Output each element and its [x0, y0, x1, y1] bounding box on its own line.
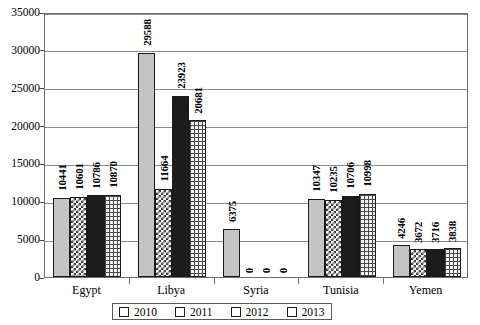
bar-value-label: 0 — [260, 268, 271, 273]
bar-tunisia-2012[interactable]: 10706 — [342, 196, 359, 277]
bar-group: 10347102351070610998 — [308, 14, 376, 277]
bar-value-label: 10706 — [345, 163, 356, 190]
bar-value-label: 4246 — [396, 217, 407, 238]
x-axis-label-egypt: Egypt — [44, 284, 129, 297]
y-axis-tick-label: 20000 — [11, 121, 40, 132]
bar-syria-2010[interactable]: 6375 — [223, 229, 240, 277]
bar-value-label: 3838 — [447, 221, 458, 242]
bar-libya-2011[interactable]: 11664 — [155, 189, 172, 277]
bar-libya-2012[interactable]: 23923 — [172, 96, 189, 277]
y-axis-tick — [39, 50, 44, 51]
legend-label: 2010 — [134, 306, 157, 318]
legend-entry-2012[interactable]: 2012 — [231, 306, 269, 318]
bar-group: 29588116642392320681 — [138, 14, 206, 277]
bar-tunisia-2011[interactable]: 10235 — [325, 200, 342, 277]
y-axis-tick-label: 5000 — [17, 234, 40, 245]
bar-egypt-2012[interactable]: 10786 — [87, 195, 104, 277]
bar-group: 6375000 — [223, 14, 291, 277]
legend-entry-2011[interactable]: 2011 — [175, 306, 213, 318]
legend-entry-2010[interactable]: 2010 — [119, 306, 157, 318]
y-axis-tick — [39, 13, 44, 14]
bar-yemen-2011[interactable]: 3672 — [410, 249, 427, 277]
bar-chart: 05000100001500020000250003000035000 1044… — [0, 0, 480, 325]
bar-value-label: 10235 — [328, 166, 339, 193]
y-axis-tick — [39, 278, 44, 279]
bar-yemen-2010[interactable]: 4246 — [393, 245, 410, 277]
legend-swatch-checker-icon — [175, 307, 185, 317]
bar-value-label: 6375 — [226, 201, 237, 222]
legend-label: 2013 — [302, 306, 325, 318]
plot-area: 1044110601107861087029588116642392320681… — [44, 13, 468, 278]
bar-libya-2013[interactable]: 20681 — [189, 120, 206, 277]
x-axis-label-libya: Libya — [129, 284, 214, 297]
x-axis-separator — [129, 278, 130, 284]
bar-egypt-2010[interactable]: 10441 — [53, 198, 70, 277]
y-axis-tick-label: 35000 — [11, 7, 40, 18]
bar-egypt-2011[interactable]: 10601 — [70, 197, 87, 277]
y-axis-tick-label: 30000 — [11, 45, 40, 56]
y-axis-tick — [39, 202, 44, 203]
legend-label: 2011 — [190, 306, 213, 318]
y-axis-tick — [39, 240, 44, 241]
x-axis-label-tunisia: Tunisia — [298, 284, 383, 297]
bar-value-label: 20681 — [192, 87, 203, 114]
y-axis-tick-label: 10000 — [11, 196, 40, 207]
bar-value-label: 10998 — [362, 160, 373, 187]
legend-entry-2013[interactable]: 2013 — [287, 306, 325, 318]
legend-swatch-solid-light-icon — [119, 307, 129, 317]
y-axis: 05000100001500020000250003000035000 — [0, 0, 40, 325]
bar-yemen-2013[interactable]: 3838 — [444, 248, 461, 277]
bar-yemen-2012[interactable]: 3716 — [427, 249, 444, 277]
legend-label: 2012 — [246, 306, 269, 318]
bar-value-label: 0 — [277, 268, 288, 273]
bar-value-label: 3672 — [413, 222, 424, 243]
bar-group: 4246367237163838 — [393, 14, 461, 277]
y-axis-tick-label: 15000 — [11, 158, 40, 169]
y-axis-tick — [39, 164, 44, 165]
y-axis-tick — [39, 88, 44, 89]
bar-tunisia-2013[interactable]: 10998 — [359, 194, 376, 277]
y-axis-tick — [39, 126, 44, 127]
bar-value-label: 3716 — [430, 221, 441, 242]
legend-swatch-grid-icon — [287, 307, 297, 317]
bar-value-label: 10786 — [90, 162, 101, 189]
x-axis-label-syria: Syria — [214, 284, 299, 297]
bar-value-label: 23923 — [175, 63, 186, 90]
x-axis-separator — [214, 278, 215, 284]
legend-swatch-solid-black-icon — [231, 307, 241, 317]
chart-legend: 2010201120122013 — [112, 303, 332, 320]
bar-egypt-2013[interactable]: 10870 — [104, 195, 121, 277]
bar-value-label: 10601 — [73, 163, 84, 190]
x-axis-label-yemen: Yemen — [383, 284, 468, 297]
x-axis-separator — [298, 278, 299, 284]
bar-value-label: 0 — [243, 268, 254, 273]
bar-value-label: 10347 — [311, 165, 322, 192]
y-axis-tick-label: 25000 — [11, 83, 40, 94]
x-axis-separator — [383, 278, 384, 284]
bar-value-label: 11664 — [158, 156, 169, 182]
bar-value-label: 10870 — [107, 161, 118, 188]
bar-group: 10441106011078610870 — [53, 14, 121, 277]
bar-value-label: 10441 — [56, 165, 67, 192]
bar-libya-2010[interactable]: 29588 — [138, 53, 155, 277]
bar-tunisia-2010[interactable]: 10347 — [308, 199, 325, 277]
bar-value-label: 29588 — [141, 20, 152, 47]
